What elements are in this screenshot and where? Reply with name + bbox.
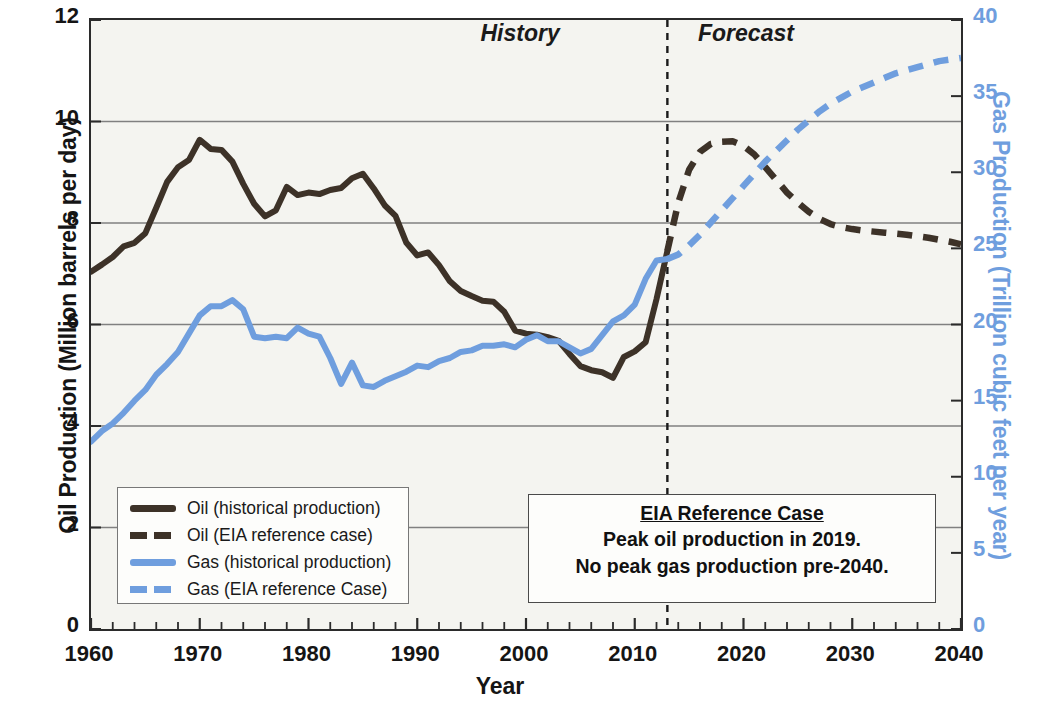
legend-swatch-solid xyxy=(130,505,176,512)
x-tick-2020: 2020 xyxy=(697,641,787,667)
legend-item-3[interactable]: Gas (EIA reference Case) xyxy=(118,576,408,602)
forecast-label: Forecast xyxy=(698,20,794,47)
y-tick-left-12: 12 xyxy=(55,3,79,29)
series-line-2 xyxy=(91,259,667,442)
y-tick-left-0: 0 xyxy=(67,612,79,638)
y-tick-right-30: 30 xyxy=(973,155,997,181)
y-tick-right-0: 0 xyxy=(973,612,985,638)
y-tick-left-4: 4 xyxy=(67,409,79,435)
annotation-box: EIA Reference Case Peak oil production i… xyxy=(528,494,936,603)
series-line-1 xyxy=(667,141,961,251)
y-tick-right-10: 10 xyxy=(973,460,997,486)
y-tick-right-35: 35 xyxy=(973,79,997,105)
x-tick-2040: 2040 xyxy=(914,641,1004,667)
x-tick-2030: 2030 xyxy=(805,641,895,667)
legend-label-0: Oil (historical production) xyxy=(187,498,381,519)
x-tick-1960: 1960 xyxy=(44,641,134,667)
y-tick-right-20: 20 xyxy=(973,308,997,334)
legend-item-0[interactable]: Oil (historical production) xyxy=(118,495,408,521)
y-tick-right-40: 40 xyxy=(973,3,997,29)
series-line-3 xyxy=(667,58,961,259)
x-tick-1990: 1990 xyxy=(370,641,460,667)
y-tick-left-6: 6 xyxy=(67,308,79,334)
annotation-line-3: No peak gas production pre-2040. xyxy=(529,553,935,579)
legend-label-1: Oil (EIA reference case) xyxy=(187,525,373,546)
legend-swatch-dashed xyxy=(130,532,176,539)
annotation-line-2: Peak oil production in 2019. xyxy=(529,526,935,552)
y-tick-right-15: 15 xyxy=(973,384,997,410)
legend-label-2: Gas (historical production) xyxy=(187,552,391,573)
y-tick-left-2: 2 xyxy=(67,511,79,537)
legend-item-2[interactable]: Gas (historical production) xyxy=(118,549,408,575)
series-line-0 xyxy=(91,140,667,378)
history-label: History xyxy=(481,20,560,47)
x-axis-title: Year xyxy=(0,673,1000,700)
annotation-title: EIA Reference Case xyxy=(529,500,935,526)
legend-swatch-dashed xyxy=(130,586,176,593)
y-tick-right-5: 5 xyxy=(973,536,985,562)
x-tick-2000: 2000 xyxy=(479,641,569,667)
chart-figure: Oil Production (Million barrels per day)… xyxy=(0,0,1052,704)
legend-label-3: Gas (EIA reference Case) xyxy=(187,579,387,600)
y-tick-right-25: 25 xyxy=(973,231,997,257)
legend-swatch-solid xyxy=(130,559,176,566)
x-tick-1980: 1980 xyxy=(262,641,352,667)
y-tick-left-8: 8 xyxy=(67,206,79,232)
y-tick-left-10: 10 xyxy=(55,105,79,131)
x-tick-2010: 2010 xyxy=(588,641,678,667)
x-tick-1970: 1970 xyxy=(153,641,243,667)
legend-item-1[interactable]: Oil (EIA reference case) xyxy=(118,522,408,548)
chart-legend: Oil (historical production)Oil (EIA refe… xyxy=(117,487,409,604)
